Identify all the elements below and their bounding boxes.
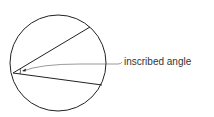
chord-upper	[13, 27, 90, 73]
inscribed-angle-diagram: inscribed angle	[0, 0, 214, 117]
leader-line	[23, 62, 122, 71]
arrowhead-icon	[22, 69, 26, 72]
circle	[10, 15, 106, 111]
angle-arc	[20, 69, 21, 74]
chord-lower	[13, 73, 102, 85]
label-inscribed-angle: inscribed angle	[124, 56, 192, 67]
